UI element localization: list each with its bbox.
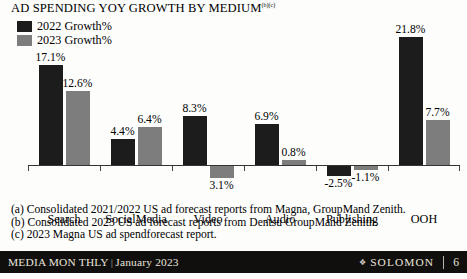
bar-value-search-2022: 17.1%: [26, 51, 76, 64]
footer-separator: |: [111, 256, 113, 268]
footer-brand-block: ❖ SOLOMON 6: [359, 256, 459, 269]
bar-value-ooh-2023: 7.7%: [413, 106, 463, 119]
axis-tick: [388, 166, 389, 171]
footer-publication: MEDIA MON THLY: [8, 256, 109, 268]
bar-video-2023: [210, 166, 234, 178]
bar-search-2023: [66, 91, 90, 165]
footnote-a: (a) Consolidated 2021/2022 US ad forecas…: [11, 204, 461, 217]
axis-tick: [172, 166, 173, 171]
bar-value-audio-2022: 6.9%: [242, 110, 292, 123]
footer-divider: [443, 256, 444, 269]
bar-ooh-2022: [399, 37, 423, 165]
axis-tick: [100, 166, 101, 171]
bar-socialmedia-2023: [138, 127, 162, 165]
bar-video-2022: [183, 116, 207, 165]
bar-value-audio-2023: 0.8%: [269, 146, 319, 159]
slide-footer: MEDIA MON THLY|January 2023 ❖ SOLOMON 6: [0, 251, 467, 273]
footnote-c: (c) 2023 Magna US ad spendforecast repor…: [11, 229, 461, 242]
bar-chart-plot: 17.1%12.6%4.4%6.4%8.3%3.1%6.9%0.8%-2.5%-…: [28, 22, 460, 167]
bar-value-video-2023: 3.1%: [197, 179, 247, 192]
axis-tick: [244, 166, 245, 171]
footnotes: (a) Consolidated 2021/2022 US ad forecas…: [11, 204, 461, 242]
bar-value-ooh-2022: 21.8%: [386, 23, 436, 36]
page-number: 6: [453, 256, 459, 269]
bar-audio-2023: [282, 160, 306, 165]
bar-value-video-2022: 8.3%: [170, 102, 220, 115]
page-title-text: AD SPENDING YOY GROWTH BY MEDIUM: [11, 1, 262, 15]
bar-value-socialmedia-2023: 6.4%: [125, 113, 175, 126]
axis-tick: [28, 166, 29, 171]
bar-ooh-2023: [426, 120, 450, 165]
diamond-icon: ❖: [359, 258, 366, 267]
brand-name: SOLOMON: [370, 256, 434, 268]
bar-value-publishing-2023: -1.1%: [341, 171, 391, 184]
page-title-superscript: (b)(c): [262, 2, 276, 8]
slide-canvas: AD SPENDING YOY GROWTH BY MEDIUM(b)(c) 2…: [0, 0, 467, 279]
bar-publishing-2023: [354, 166, 378, 170]
page-title: AD SPENDING YOY GROWTH BY MEDIUM(b)(c): [11, 1, 275, 16]
bar-value-search-2023: 12.6%: [53, 77, 103, 90]
axis-tick: [316, 166, 317, 171]
bar-socialmedia-2022: [111, 139, 135, 165]
footer-issue: January 2023: [115, 256, 178, 268]
footer-publication-info: MEDIA MON THLY|January 2023: [8, 256, 179, 268]
axis-tick: [459, 166, 460, 171]
